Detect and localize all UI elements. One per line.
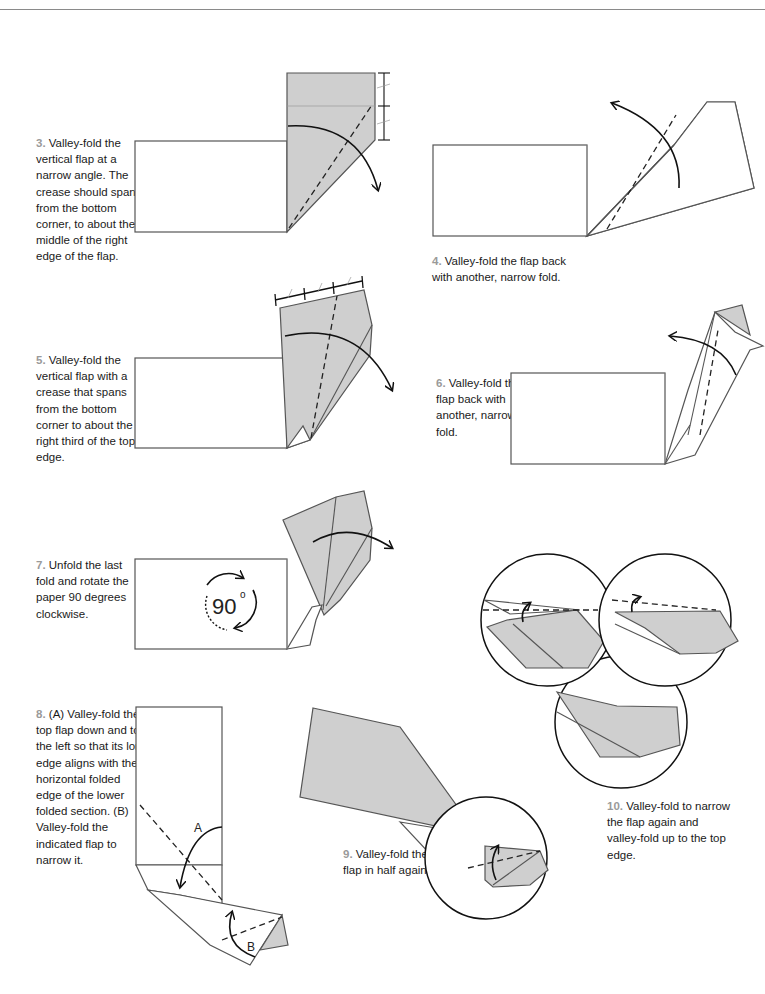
- step-3-diagram: [135, 73, 390, 232]
- measure-ticks-icon: [377, 73, 390, 140]
- fold-label-a: A: [194, 821, 202, 835]
- step-5-diagram: [135, 276, 392, 448]
- fold-label-b: B: [247, 940, 255, 954]
- step-7-diagram: 90 o: [135, 491, 392, 649]
- rotation-label: 90: [212, 594, 236, 619]
- step-10-diagram: [481, 554, 738, 788]
- step-9-diagram: [300, 708, 548, 919]
- origami-diagrams: 90 o A B: [0, 0, 765, 994]
- degree-symbol: o: [240, 589, 246, 600]
- step-8-diagram: A B: [136, 707, 288, 965]
- step-4-diagram: [433, 102, 754, 236]
- step-6-diagram: [511, 305, 763, 464]
